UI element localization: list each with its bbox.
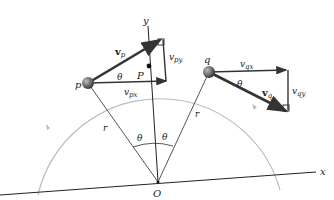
radius-label-p: r bbox=[103, 123, 108, 133]
label-vqx: vqx bbox=[240, 59, 254, 71]
label-vpx: vpx bbox=[124, 87, 138, 99]
angle-arc bbox=[133, 143, 173, 147]
theta-p: θ bbox=[117, 72, 123, 82]
x-axis-label: x bbox=[320, 166, 326, 177]
origin-dot bbox=[157, 181, 160, 184]
origin-label: O bbox=[153, 188, 161, 199]
vector-vpx bbox=[88, 81, 166, 83]
y-axis bbox=[148, 26, 158, 182]
label-vp: vp bbox=[114, 46, 126, 59]
path-arrow-right bbox=[252, 104, 257, 110]
p-label: p bbox=[75, 79, 82, 90]
q-label: q bbox=[204, 54, 210, 65]
theta-q: θ bbox=[237, 79, 243, 89]
y-axis-label: y bbox=[142, 15, 149, 26]
label-vqy: vqy bbox=[292, 86, 307, 98]
physics-diagram: y x O p q P r r θ θ θ θ vp vpx vpy vqx v… bbox=[0, 0, 334, 200]
path-arrow-left bbox=[46, 124, 50, 130]
theta-left: θ bbox=[137, 133, 143, 143]
particle-q bbox=[203, 66, 215, 78]
vector-vpy bbox=[163, 40, 166, 81]
theta-right: θ bbox=[162, 132, 168, 142]
vector-vp bbox=[88, 40, 160, 83]
vector-vq bbox=[209, 72, 286, 111]
point-P bbox=[147, 64, 152, 69]
radius-label-q: r bbox=[195, 109, 200, 119]
particle-p bbox=[82, 77, 94, 89]
radius-q bbox=[158, 72, 209, 182]
label-vpy: vpy bbox=[169, 52, 184, 64]
radius-p bbox=[88, 83, 158, 182]
P-label: P bbox=[136, 70, 144, 81]
